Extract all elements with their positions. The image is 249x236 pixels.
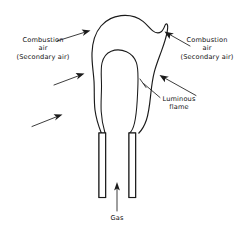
label-combustion-air-right-line1: Combustion — [168, 36, 246, 44]
secondary-air-arrow-right-lower — [160, 75, 197, 96]
burner-flame-diagram: Combustion air (Secondary air) Combustio… — [0, 0, 249, 236]
burner-tube-right — [129, 133, 136, 198]
label-combustion-air-left-line3: (Secondary air) — [4, 53, 82, 61]
secondary-air-arrow-left-middle — [54, 73, 85, 85]
secondary-air-arrow-left-lower — [32, 114, 63, 126]
gas-flow-arrow — [114, 182, 120, 211]
label-luminous-flame-line2: flame — [150, 103, 208, 111]
inner-luminous-flame-core — [101, 50, 138, 133]
label-combustion-air-right-line3: (Secondary air) — [168, 53, 246, 61]
label-combustion-air-right-line2: air — [168, 44, 246, 52]
burner-tube-left — [99, 133, 106, 198]
label-luminous-flame: Luminous flame — [150, 95, 208, 112]
label-luminous-flame-line1: Luminous — [150, 95, 208, 103]
label-gas: Gas — [100, 214, 134, 222]
label-combustion-air-right: Combustion air (Secondary air) — [168, 36, 246, 61]
label-combustion-air-left-line2: air — [4, 44, 82, 52]
label-combustion-air-left: Combustion air (Secondary air) — [4, 36, 82, 61]
label-gas-line1: Gas — [100, 214, 134, 222]
label-combustion-air-left-line1: Combustion — [4, 36, 82, 44]
